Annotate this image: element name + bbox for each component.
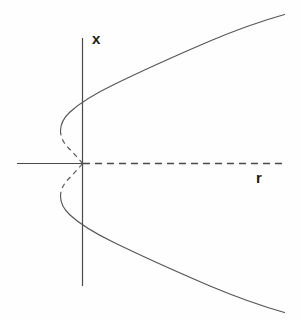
lower-stable-branch-curve: [61, 197, 285, 313]
x-axis-label: x: [92, 31, 100, 46]
lower-unstable-branch-curve: [60, 164, 82, 197]
upper-unstable-branch-curve: [60, 131, 82, 164]
bifurcation-diagram-figure: x r: [0, 0, 301, 320]
r-axis-label: r: [256, 170, 262, 185]
plot-canvas: [0, 0, 301, 320]
